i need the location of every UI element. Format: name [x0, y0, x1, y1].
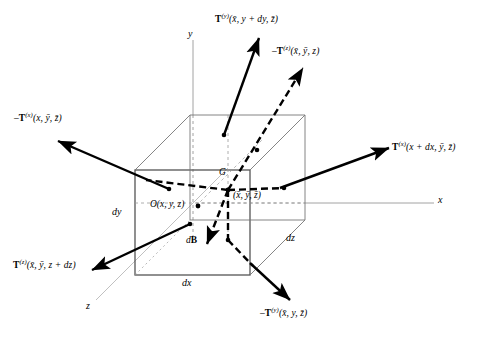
axis-label-x: x — [438, 194, 442, 205]
axis-label-y: y — [188, 28, 192, 39]
traction-x-negative-superscript: (x) — [25, 111, 33, 118]
cube-back-face — [190, 115, 305, 220]
centroid-label-text: G — [219, 167, 226, 177]
arrow-traction-y-negative — [250, 263, 290, 300]
arrow-hidden-bottom-face2 — [228, 240, 253, 266]
dot-y-negative — [226, 238, 231, 243]
arrow-traction-y-top — [224, 38, 259, 135]
dot-centroid — [226, 188, 231, 193]
arrow-traction-z-negative — [228, 68, 303, 190]
body-force-label: dB — [186, 236, 197, 246]
centroid-point-label: G — [219, 167, 226, 177]
traction-label-y-negative: –T(y)(x̄, y, z̄) — [260, 307, 307, 319]
origin-label-text: O(x, y, z) — [150, 199, 184, 209]
axis-label-z: z — [86, 300, 90, 311]
centroid-coords-label: (x̄, ȳ, z̄) — [233, 190, 261, 200]
traction-x-positive-superscript: (x) — [398, 140, 406, 147]
dimension-label-dy: dy — [112, 206, 121, 217]
stress-cube-figure: y x z O(x, y, z) G (x̄, ȳ, z̄) dy dx dz… — [0, 0, 481, 341]
traction-z-positive-superscript: (z) — [19, 258, 26, 265]
arrow-traction-x-negative — [58, 141, 169, 189]
traction-label-x-negative: –T(x)(x, ȳ, z̄) — [14, 112, 62, 124]
cube-edge-br — [250, 220, 305, 275]
traction-y-top-args: (x̄, y + dy, z̄) — [229, 14, 278, 24]
traction-y-negative-superscript: (y) — [271, 306, 279, 313]
dot-x-negative — [167, 187, 172, 192]
arrow-body-force — [207, 190, 228, 244]
traction-x-negative-args: (x, ȳ, z̄) — [33, 113, 62, 123]
dimension-label-dx: dx — [182, 277, 191, 288]
cube-wireframe — [135, 115, 305, 275]
body-force-symbol: B — [191, 235, 197, 245]
traction-z-positive-args: (x̄, ȳ, z + dz) — [27, 260, 76, 270]
origin-point-label: O(x, y, z) — [150, 199, 184, 209]
cube-internal-dashes — [135, 115, 305, 240]
traction-label-z-positive: T(z)(x̄, ȳ, z + dz) — [13, 259, 76, 271]
dot-z-positive — [188, 222, 193, 227]
traction-label-z-negative: –T(z)(x̄, ȳ, z) — [272, 45, 319, 57]
dot-x-positive — [282, 186, 287, 191]
dot-y-top — [222, 133, 227, 138]
traction-z-negative-superscript: (z) — [283, 44, 290, 51]
dimension-label-dz: dz — [286, 232, 295, 243]
arrow-traction-x-positive — [280, 148, 389, 188]
traction-label-x-positive: T(x)(x + dx, ȳ, z̄) — [392, 141, 456, 153]
arrow-traction-z-positive — [92, 224, 190, 270]
figure-canvas — [0, 0, 481, 341]
traction-label-y-top: T(y)(x̄, y + dy, z̄) — [215, 13, 278, 25]
traction-y-top-superscript: (y) — [221, 12, 229, 19]
dot-z-negative — [255, 148, 260, 153]
traction-x-positive-args: (x + dx, ȳ, z̄) — [406, 142, 455, 152]
centroid-coords-text: (x̄, ȳ, z̄) — [233, 190, 261, 200]
traction-y-negative-args: (x̄, y, z̄) — [279, 308, 307, 318]
traction-z-negative-args: (x̄, ȳ, z) — [291, 46, 320, 56]
cube-edge-tl — [135, 115, 190, 170]
z-axis-line — [96, 168, 228, 300]
dot-origin — [196, 204, 201, 209]
